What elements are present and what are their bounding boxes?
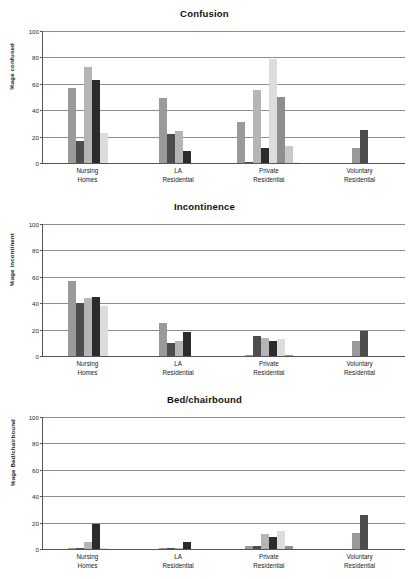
bar bbox=[352, 148, 360, 163]
bar bbox=[285, 546, 293, 549]
plot-incontinence: 020406080100 bbox=[42, 224, 405, 357]
y-tick-label: 60 bbox=[32, 466, 43, 473]
bar bbox=[261, 148, 269, 163]
bar bbox=[253, 546, 261, 549]
x-axis-labels-incontinence: NursingHomesLAResidentialPrivateResident… bbox=[42, 359, 405, 377]
y-tick-label: 100 bbox=[29, 28, 43, 35]
bar bbox=[92, 524, 100, 549]
bar-group bbox=[43, 31, 134, 163]
bar bbox=[76, 303, 84, 356]
bar bbox=[92, 80, 100, 163]
bar bbox=[245, 162, 253, 163]
bar bbox=[100, 133, 108, 163]
bar bbox=[159, 323, 167, 356]
chart-title-incontinence: Incontinence bbox=[0, 193, 409, 212]
y-tick-label: 80 bbox=[32, 440, 43, 447]
chart-panel-bedchairbound: Bed/chairbound %age Bed/chairbound 02040… bbox=[0, 386, 409, 579]
bar-group bbox=[224, 31, 315, 163]
chart-title-confusion: Confusion bbox=[0, 0, 409, 19]
bar-group bbox=[315, 224, 406, 356]
bar bbox=[277, 531, 285, 549]
x-axis-category-label: LAResidential bbox=[133, 552, 224, 570]
x-axis-labels-confusion: NursingHomesLAResidentialPrivateResident… bbox=[42, 166, 405, 184]
bar bbox=[245, 355, 253, 356]
bar bbox=[360, 130, 368, 163]
x-axis-category-label: NursingHomes bbox=[42, 359, 133, 377]
bar bbox=[76, 548, 84, 549]
bar bbox=[159, 98, 167, 163]
y-axis-label-incontinence: %age incontinent bbox=[8, 215, 15, 305]
bar bbox=[245, 546, 253, 549]
bar bbox=[100, 306, 108, 356]
x-axis-category-label: NursingHomes bbox=[42, 552, 133, 570]
y-tick-label: 60 bbox=[32, 273, 43, 280]
bar bbox=[293, 162, 301, 163]
y-tick-label: 60 bbox=[32, 80, 43, 87]
bar-group bbox=[43, 417, 134, 549]
bar-group bbox=[224, 224, 315, 356]
bar-groups bbox=[43, 417, 405, 549]
bar bbox=[84, 542, 92, 549]
bar-groups bbox=[43, 224, 405, 356]
bar bbox=[360, 331, 368, 356]
bar bbox=[269, 59, 277, 163]
x-axis-category-label: VoluntaryResidential bbox=[314, 359, 405, 377]
plot-area-bedchairbound: %age Bed/chairbound 020406080100 Nursing… bbox=[0, 411, 409, 571]
plot-area-incontinence: %age incontinent 020406080100 NursingHom… bbox=[0, 218, 409, 378]
bar bbox=[261, 534, 269, 549]
bar-group bbox=[315, 417, 406, 549]
bar bbox=[76, 141, 84, 163]
bar bbox=[253, 336, 261, 356]
bar-group bbox=[315, 31, 406, 163]
chart-panel-incontinence: Incontinence %age incontinent 0204060801… bbox=[0, 193, 409, 386]
y-tick-label: 80 bbox=[32, 247, 43, 254]
bar bbox=[175, 548, 183, 549]
bar bbox=[175, 341, 183, 356]
bar bbox=[68, 548, 76, 549]
bar-group bbox=[134, 417, 225, 549]
bar-group bbox=[134, 224, 225, 356]
bar bbox=[237, 122, 245, 163]
bar bbox=[92, 297, 100, 356]
y-tick-label: 20 bbox=[32, 133, 43, 140]
y-axis-label-confusion: %age confused bbox=[8, 22, 15, 112]
x-axis-category-label: NursingHomes bbox=[42, 166, 133, 184]
bar bbox=[269, 341, 277, 356]
bar bbox=[159, 548, 167, 549]
bar bbox=[183, 542, 191, 549]
y-tick-label: 100 bbox=[29, 221, 43, 228]
bar bbox=[84, 298, 92, 356]
bar bbox=[167, 134, 175, 163]
bar bbox=[360, 515, 368, 549]
bar bbox=[68, 281, 76, 356]
bar bbox=[285, 355, 293, 356]
bar bbox=[183, 151, 191, 163]
x-axis-category-label: PrivateResidential bbox=[224, 552, 315, 570]
bar bbox=[100, 548, 108, 549]
bar bbox=[84, 67, 92, 163]
plot-confusion: 020406080100 bbox=[42, 31, 405, 164]
chart-title-bedchairbound: Bed/chairbound bbox=[0, 386, 409, 405]
plot-area-confusion: %age confused 020406080100 NursingHomesL… bbox=[0, 25, 409, 185]
y-axis-label-bedchairbound: %age Bed/chairbound bbox=[9, 403, 16, 503]
x-axis-labels-bedchairbound: NursingHomesLAResidentialPrivateResident… bbox=[42, 552, 405, 570]
bar bbox=[261, 338, 269, 356]
bar bbox=[277, 339, 285, 356]
bar-groups bbox=[43, 31, 405, 163]
bar bbox=[277, 97, 285, 163]
bar bbox=[352, 533, 360, 549]
bar bbox=[352, 341, 360, 356]
bar bbox=[269, 537, 277, 549]
x-axis-category-label: VoluntaryResidential bbox=[314, 552, 405, 570]
x-axis-category-label: PrivateResidential bbox=[224, 359, 315, 377]
x-axis-category-label: PrivateResidential bbox=[224, 166, 315, 184]
y-tick-label: 100 bbox=[29, 414, 43, 421]
y-tick-label: 40 bbox=[32, 493, 43, 500]
bar-group bbox=[224, 417, 315, 549]
bar-group bbox=[134, 31, 225, 163]
bar bbox=[285, 146, 293, 163]
y-tick-label: 20 bbox=[32, 326, 43, 333]
x-axis-category-label: LAResidential bbox=[133, 359, 224, 377]
plot-bedchairbound: 020406080100 bbox=[42, 417, 405, 550]
y-tick-label: 80 bbox=[32, 54, 43, 61]
